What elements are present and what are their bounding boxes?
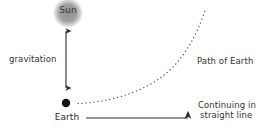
straight-line-label: Continuing in straight line [198, 101, 256, 121]
sun-label: Sun [56, 5, 80, 15]
path-of-earth-label: Path of Earth [197, 57, 253, 67]
straight-line-label-line1: Continuing in [198, 100, 256, 110]
straight-line-label-line2: straight line [200, 111, 256, 121]
earth-label: Earth [53, 112, 81, 122]
earth-body [62, 99, 70, 107]
physics-diagram: Gravitation and the orbital path of Eart… [0, 0, 265, 131]
gravitation-label: gravitation [9, 55, 56, 65]
path-of-earth-curve [78, 9, 206, 104]
